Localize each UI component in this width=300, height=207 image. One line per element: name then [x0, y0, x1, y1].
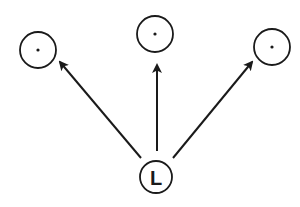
target-node-right: [254, 29, 290, 65]
target-node-left: [20, 32, 56, 68]
root-node: L: [140, 161, 172, 193]
target-dot-icon: [270, 45, 273, 48]
arrow-to-right: [173, 62, 252, 158]
root-label: L: [150, 167, 162, 189]
diagram-canvas: L: [0, 0, 300, 207]
edges: [60, 62, 252, 158]
arrow-to-left: [60, 62, 141, 158]
target-node-middle: [137, 16, 173, 52]
target-dot-icon: [153, 32, 156, 35]
target-dot-icon: [36, 48, 39, 51]
